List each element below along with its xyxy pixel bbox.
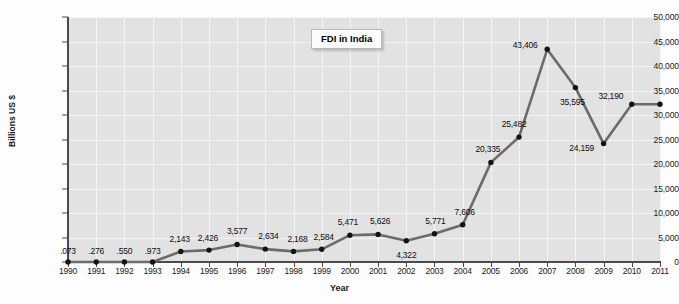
x-tick-mark <box>463 263 464 267</box>
x-tick-mark <box>660 263 661 267</box>
data-point-label: .973 <box>145 246 161 256</box>
data-point-label: .550 <box>117 246 133 256</box>
y-tick-label: 15,000 <box>619 184 679 194</box>
y-tick-mark <box>62 164 68 165</box>
y-tick-label: 40,000 <box>619 61 679 71</box>
x-tick-mark <box>322 263 323 267</box>
x-tick-mark <box>378 263 379 267</box>
y-tick-mark <box>62 41 68 42</box>
y-tick-label: 20,000 <box>619 159 679 169</box>
data-point-label: 5,771 <box>425 216 445 226</box>
x-tick-label: 2011 <box>640 266 679 276</box>
y-tick-label: 50,000 <box>619 12 679 22</box>
x-tick-mark <box>265 263 266 267</box>
x-tick-mark <box>547 263 548 267</box>
y-tick-mark <box>62 90 68 91</box>
data-point-label: 5,626 <box>370 216 390 226</box>
data-point-label: 2,168 <box>287 234 307 244</box>
x-tick-mark <box>406 263 407 267</box>
data-point-label: 20,335 <box>475 144 500 154</box>
data-point-label: 2,426 <box>198 233 218 243</box>
data-point-label: 25,482 <box>502 119 527 129</box>
y-tick-mark <box>62 139 68 140</box>
data-point-label: 5,471 <box>338 217 358 227</box>
y-tick-label: 35,000 <box>619 86 679 96</box>
gridline-horizontal <box>68 91 660 92</box>
data-point-label: 43,406 <box>513 40 538 50</box>
data-point-label: 24,159 <box>569 143 594 153</box>
y-tick-mark <box>62 66 68 67</box>
x-tick-mark <box>68 263 69 267</box>
fdi-line-chart: 05,00010,00015,00020,00025,00030,00035,0… <box>0 0 679 304</box>
x-tick-mark <box>604 263 605 267</box>
y-tick-label: 30,000 <box>619 110 679 120</box>
gridline-horizontal <box>68 164 660 165</box>
data-point-label: 32,190 <box>598 91 623 101</box>
y-tick-mark <box>62 115 68 116</box>
x-tick-mark <box>124 263 125 267</box>
y-tick-mark <box>62 237 68 238</box>
y-axis-spine <box>67 17 69 263</box>
y-tick-mark <box>62 213 68 214</box>
x-tick-mark <box>294 263 295 267</box>
data-point-label: 7,606 <box>455 207 475 217</box>
gridline-horizontal <box>68 140 660 141</box>
x-tick-mark <box>434 263 435 267</box>
x-tick-mark <box>575 263 576 267</box>
gridline-horizontal <box>68 238 660 239</box>
data-point-label: .073 <box>60 246 76 256</box>
x-axis-title: Year <box>0 283 679 293</box>
data-point-label: 2,584 <box>314 232 334 242</box>
x-tick-mark <box>153 263 154 267</box>
y-tick-label: 25,000 <box>619 135 679 145</box>
x-axis-spine <box>67 261 661 263</box>
data-point-label: 2,634 <box>258 231 278 241</box>
data-point-label: .276 <box>88 246 104 256</box>
x-tick-mark <box>350 263 351 267</box>
gridline-horizontal <box>68 66 660 67</box>
x-tick-mark <box>632 263 633 267</box>
gridline-horizontal <box>68 17 660 18</box>
y-tick-mark <box>62 17 68 18</box>
x-tick-mark <box>181 263 182 267</box>
x-tick-mark <box>209 263 210 267</box>
plot-area <box>68 17 660 262</box>
data-point-label: 35,595 <box>560 97 585 107</box>
y-tick-label: 5,000 <box>619 233 679 243</box>
x-tick-mark <box>491 263 492 267</box>
y-axis-title: Billions US $ <box>7 71 17 171</box>
chart-title: FDI in India <box>311 29 382 49</box>
data-point-label: 3,577 <box>227 226 247 236</box>
x-tick-mark <box>519 263 520 267</box>
y-tick-label: 45,000 <box>619 37 679 47</box>
gridline-horizontal <box>68 189 660 190</box>
x-tick-mark <box>237 263 238 267</box>
y-tick-label: 10,000 <box>619 208 679 218</box>
data-point-label: 2,143 <box>170 234 190 244</box>
y-tick-mark <box>62 188 68 189</box>
data-point-label: 4,322 <box>396 250 416 260</box>
gridline-horizontal <box>68 213 660 214</box>
x-tick-mark <box>96 263 97 267</box>
gridline-horizontal <box>68 115 660 116</box>
